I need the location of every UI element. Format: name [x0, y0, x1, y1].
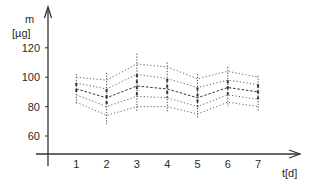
- x-tick-label: 6: [225, 158, 231, 170]
- error-bars: [76, 54, 258, 125]
- y-tick-label: 60: [28, 130, 40, 142]
- y-tick-label: 100: [22, 71, 40, 83]
- x-tick-label: 4: [164, 158, 170, 170]
- x-ticks: 1234567: [73, 158, 261, 170]
- y-tick-label: 120: [22, 42, 40, 54]
- x-tick-label: 1: [73, 158, 79, 170]
- y-axis-label-unit: m: [25, 13, 34, 25]
- y-tick-label: 80: [28, 101, 40, 113]
- x-tick-label: 3: [134, 158, 140, 170]
- series-lower-outer: [76, 102, 258, 115]
- x-tick-label: 5: [194, 158, 200, 170]
- y-axis: [45, 7, 52, 166]
- y-ticks: 6080100120: [22, 42, 48, 142]
- chart: m [µg] t[d] 6080100120 1234567: [0, 0, 316, 182]
- x-axis-label: t[d]: [282, 167, 297, 179]
- x-tick-label: 2: [104, 158, 110, 170]
- x-tick-label: 7: [255, 158, 261, 170]
- y-axis-label: [µg]: [12, 27, 31, 39]
- x-axis: [36, 150, 300, 158]
